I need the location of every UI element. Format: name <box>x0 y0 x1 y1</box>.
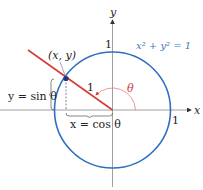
angle-label: θ <box>127 82 134 95</box>
unit-circle-diagram: y x 1 1 x² + y² = 1 (x, y) 1 θ y = sin θ… <box>0 0 203 190</box>
circle-equation: x² + y² = 1 <box>136 40 191 51</box>
cos-label: x = cos θ <box>70 118 121 131</box>
y-axis-label: y <box>109 6 117 19</box>
sin-label: y = sin θ <box>7 90 57 103</box>
y-tick-label-1: 1 <box>105 38 112 51</box>
radius-label: 1 <box>87 81 94 94</box>
x-tick-label-1: 1 <box>172 114 179 127</box>
x-axis-label: x <box>194 104 201 117</box>
point-label: (x, y) <box>48 49 76 62</box>
point-xy-dot <box>63 76 68 81</box>
